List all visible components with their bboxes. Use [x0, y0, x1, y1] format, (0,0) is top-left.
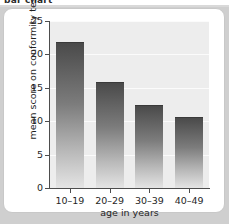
plot-area	[50, 21, 209, 188]
x-tick-label: 20–29	[90, 195, 130, 206]
bar	[96, 82, 124, 188]
bar-chart-figure: mean score on conformity test age in yea…	[4, 9, 226, 214]
bar	[56, 42, 84, 188]
y-tick-mark	[45, 188, 49, 189]
y-tick-mark	[45, 88, 49, 89]
x-axis-line	[49, 188, 210, 189]
y-tick-label: 25	[31, 15, 43, 26]
x-tick-label: 10–19	[50, 195, 90, 206]
x-tick-mark	[189, 189, 190, 193]
y-tick-mark	[45, 121, 49, 122]
bar	[175, 117, 203, 188]
y-tick-mark	[45, 21, 49, 22]
x-tick-mark	[110, 189, 111, 193]
gridline	[50, 21, 209, 22]
y-tick-label: 5	[37, 149, 43, 160]
x-tick-mark	[149, 189, 150, 193]
y-tick-mark	[45, 54, 49, 55]
page-background: bar chart mean score on conformity test …	[0, 0, 229, 224]
bar	[135, 105, 163, 188]
chart-card: mean score on conformity test age in yea…	[3, 8, 225, 213]
x-axis-label: age in years	[49, 207, 210, 218]
y-tick-label: 0	[37, 182, 43, 193]
x-tick-label: 40–49	[169, 195, 209, 206]
y-axis-line	[49, 21, 50, 189]
y-tick-label: 20	[31, 48, 43, 59]
x-tick-mark	[70, 189, 71, 193]
x-tick-label: 30–39	[130, 195, 170, 206]
y-tick-label: 10	[31, 115, 43, 126]
y-tick-label: 15	[31, 82, 43, 93]
y-tick-mark	[45, 155, 49, 156]
